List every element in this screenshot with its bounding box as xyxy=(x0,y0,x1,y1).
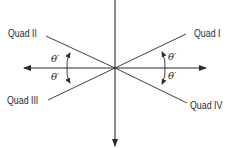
angle-arc-quad-4 xyxy=(162,68,165,84)
label-quad-4: Quad IV xyxy=(190,101,222,111)
angle-arc-quad-3 xyxy=(67,68,70,83)
label-quad-2: Quad II xyxy=(8,29,37,39)
reference-angle-diagram: Quad II Quad I Quad III Quad IV θ′ θ′ θ′… xyxy=(0,0,229,148)
theta-prime-quad-1: θ′ xyxy=(168,52,176,62)
label-quad-3: Quad III xyxy=(7,96,38,106)
angle-arc-quad-1 xyxy=(162,52,165,68)
label-quad-1: Quad I xyxy=(194,29,220,39)
diagram-canvas xyxy=(0,0,229,148)
angle-arc-quad-2 xyxy=(67,53,70,68)
theta-prime-quad-3: θ′ xyxy=(51,72,59,82)
theta-prime-quad-2: θ′ xyxy=(51,54,59,64)
theta-prime-quad-4: θ′ xyxy=(168,71,176,81)
